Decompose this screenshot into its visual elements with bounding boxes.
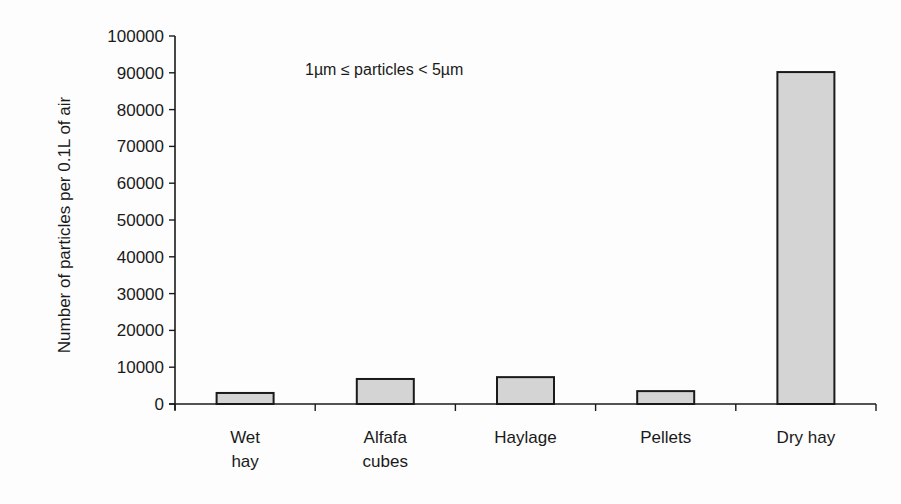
- bar-wet-hay: [217, 393, 274, 404]
- particle-size-range-label: 1µm ≤ particles < 5µm: [305, 61, 463, 78]
- y-tick-label: 50000: [117, 211, 164, 230]
- y-tick-label: 90000: [117, 64, 164, 83]
- x-category-label: Dry hay: [777, 428, 836, 447]
- x-category-label: Haylage: [494, 428, 556, 447]
- bar-chart: Number of particles per 0.1L of air 1µm …: [0, 0, 901, 504]
- y-axis-title: Number of particles per 0.1L of air: [55, 96, 74, 353]
- y-axis-label: Number of particles per 0.1L of air: [55, 96, 74, 353]
- y-tick-label: 70000: [117, 137, 164, 156]
- bar-haylage: [497, 377, 554, 404]
- bar-alfafa-cubes: [357, 379, 414, 404]
- y-tick-label: 100000: [107, 27, 164, 46]
- y-tick-label: 0: [155, 395, 164, 414]
- y-axis: 0100002000030000400005000060000700008000…: [107, 27, 175, 414]
- y-tick-label: 10000: [117, 358, 164, 377]
- y-tick-label: 20000: [117, 321, 164, 340]
- bar-pellets: [637, 391, 694, 404]
- y-tick-label: 30000: [117, 285, 164, 304]
- bars: [217, 72, 835, 404]
- bar-dry-hay: [777, 72, 834, 404]
- x-axis: [169, 404, 876, 411]
- y-tick-label: 60000: [117, 174, 164, 193]
- x-category-label: Alfafacubes: [363, 428, 408, 471]
- x-category-label: Pellets: [640, 428, 691, 447]
- chart-annotation: 1µm ≤ particles < 5µm: [305, 61, 463, 78]
- y-tick-label: 40000: [117, 248, 164, 267]
- x-axis-labels: WethayAlfafacubesHaylagePelletsDry hay: [230, 428, 836, 471]
- x-category-label: Wethay: [230, 428, 260, 471]
- y-tick-label: 80000: [117, 101, 164, 120]
